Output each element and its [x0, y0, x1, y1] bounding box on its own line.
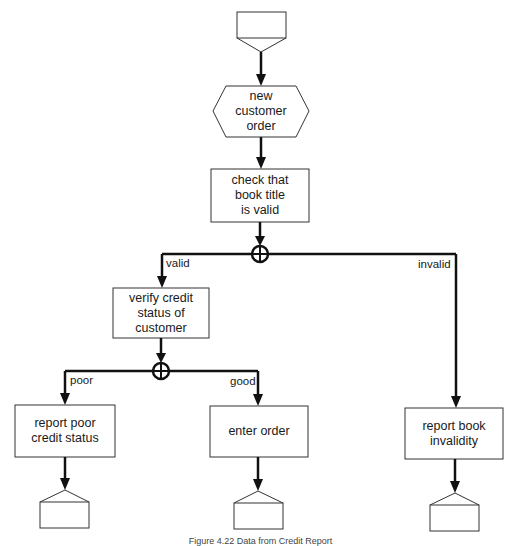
report-poor-label: report poor credit status: [15, 405, 115, 457]
start-terminal: [237, 12, 286, 52]
xor-junction-icon: [252, 246, 268, 262]
edge-label-poor: poor: [70, 374, 93, 387]
edge-label-invalid: invalid: [418, 258, 451, 271]
verify-credit-label: verify credit status of customer: [113, 288, 209, 338]
edge-label-valid: valid: [166, 257, 190, 270]
end-terminal-poor: [40, 490, 89, 528]
enter-order-label: enter order: [210, 406, 308, 457]
check-title-label: check that book title is valid: [211, 169, 309, 222]
xor-junction-icon: [153, 363, 169, 379]
new-customer-order-label: new customer order: [213, 86, 309, 137]
figure-caption: Figure 4.22 Data from Credit Report: [0, 536, 521, 546]
end-terminal-invalid: [430, 493, 479, 531]
report-invalid-label: report book invalidity: [405, 408, 503, 459]
end-terminal-order: [234, 491, 283, 529]
edge-label-good: good: [230, 375, 256, 388]
